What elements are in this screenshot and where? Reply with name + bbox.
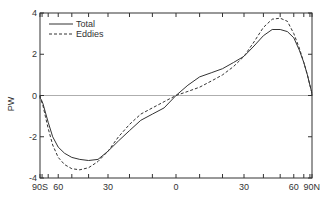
- x-tick-label: 0: [173, 182, 178, 192]
- x-tick-label: 60: [53, 182, 63, 192]
- x-tick-label: 60: [289, 182, 299, 192]
- x-tick-label: 90S: [32, 182, 48, 192]
- y-tick-label: 4: [32, 8, 37, 18]
- legend: TotalEddies: [49, 19, 104, 39]
- y-axis-label: PW: [6, 96, 16, 111]
- y-tick-label: 2: [32, 49, 37, 59]
- x-tick-label: 90N: [303, 182, 320, 192]
- legend-label-total: Total: [76, 19, 95, 29]
- x-axis: 90S60300306090N: [32, 13, 320, 192]
- x-tick-label: 30: [239, 182, 249, 192]
- legend-label-eddies: Eddies: [76, 29, 104, 39]
- series-lines: [40, 18, 312, 170]
- x-tick-label: 30: [103, 182, 113, 192]
- series-line-eddies: [40, 18, 312, 170]
- y-tick-label: 0: [32, 91, 37, 101]
- chart-canvas: -4-2024 90S60300306090N TotalEddies PW: [0, 0, 332, 198]
- y-tick-label: -2: [29, 132, 37, 142]
